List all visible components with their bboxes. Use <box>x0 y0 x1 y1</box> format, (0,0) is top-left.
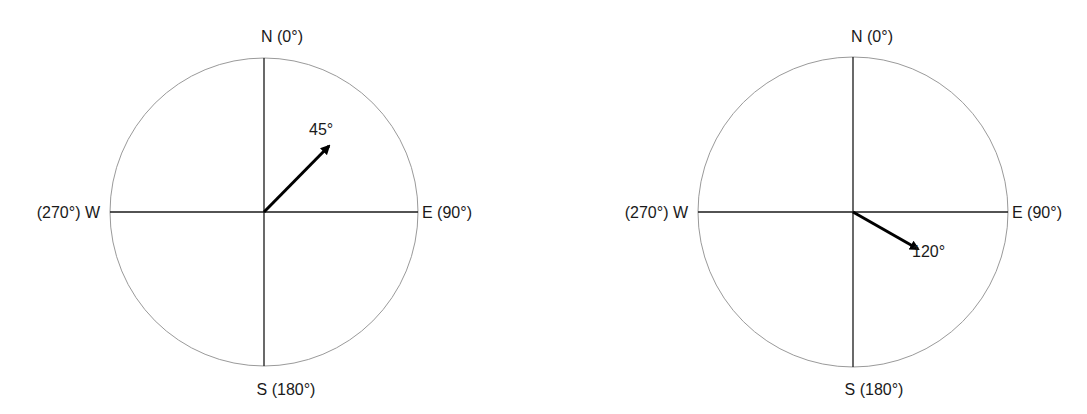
bearing-label: 45° <box>309 121 333 138</box>
east-label: E (90°) <box>422 204 472 221</box>
west-label: (270°) W <box>37 204 101 221</box>
north-label: N (0°) <box>261 28 303 45</box>
bearing-arrow <box>264 146 329 212</box>
compass-left: N (0°) E (90°) S (180°) (270°) W 45° <box>37 28 472 398</box>
south-label: S (180°) <box>845 381 904 398</box>
bearing-arrow <box>853 212 918 249</box>
compass-diagrams: N (0°) E (90°) S (180°) (270°) W 45° N (… <box>0 0 1087 414</box>
north-label: N (0°) <box>851 28 893 45</box>
south-label: S (180°) <box>257 381 316 398</box>
bearing-label: 120° <box>912 243 945 260</box>
compass-right: N (0°) E (90°) S (180°) (270°) W 120° <box>625 28 1062 398</box>
west-label: (270°) W <box>625 204 689 221</box>
east-label: E (90°) <box>1012 204 1062 221</box>
